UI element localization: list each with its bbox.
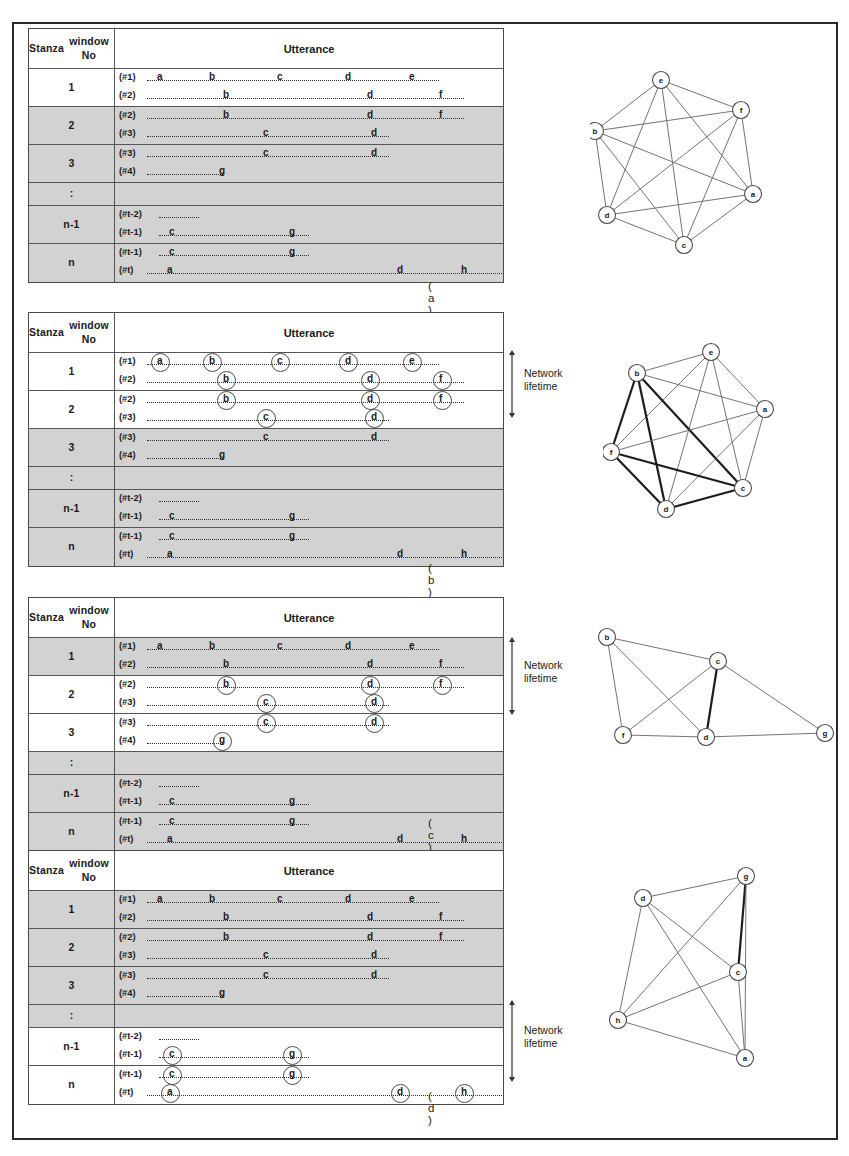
network-lifetime-label-line1: Network [524,1024,563,1037]
graph-node-g: g [817,725,834,742]
utterance-token: c [263,949,269,960]
graph-edge [623,661,718,735]
row-label: n-1 [29,775,115,812]
utterance-tag: (#t-1) [119,796,142,806]
utterance-tag: (#4) [119,735,136,745]
row-label: 1 [29,353,115,390]
utterance-line: (#t-1)cg [119,246,501,262]
graph-node-label: f [622,731,625,740]
utterance-token: c [169,795,175,806]
utterance-token: g [289,815,295,826]
table-header-row: Stanzawindow NoUtterance [29,598,503,638]
utterance-dotted-line [159,1039,199,1040]
utterance-token: d [371,696,377,707]
table-row: : [29,752,503,775]
utterance-tag: (#t-1) [119,227,142,237]
network-graph-c: bcfdg [593,615,848,765]
graph-edge [607,637,718,661]
row-utterances: (#3)cd(#4)g [115,714,503,751]
utterance-dotted-line [147,920,464,921]
utterance-token: c [169,1048,175,1059]
utterance-line: (#t-1)cg [119,530,501,546]
utterance-line: (#4)g [119,449,501,465]
utterance-tag: (#1) [119,641,136,651]
table-header-row: Stanzawindow NoUtterance [29,29,503,69]
table-row: 2(#2)bdf(#3)cd [29,929,503,967]
utterance-line: (#t)adh [119,548,501,564]
utterance-line: (#4)g [119,734,501,750]
graph-node-d: d [698,729,715,746]
token-circle [433,391,452,410]
graph-edge [711,352,765,409]
utterance-token: d [367,393,373,404]
graph-edge [643,898,745,1058]
utterance-token: d [367,658,373,669]
graph-edge [618,1020,745,1058]
utterance-line: (#t-1)cg [119,1048,501,1064]
utterance-token: c [263,716,269,727]
row-label: n-1 [29,206,115,243]
utterance-token: d [371,949,377,960]
utterance-dotted-line [147,842,503,843]
utterance-line: (#4)g [119,987,501,1003]
utterance-token: d [367,931,373,942]
graph-edge [611,373,637,452]
graph-edge [611,452,743,488]
row-label: 3 [29,429,115,466]
utterance-line: (#t-2) [119,208,501,224]
utterance-tag: (#1) [119,72,136,82]
network-lifetime-label: Networklifetime [524,1024,563,1050]
utterance-tag: (#t-2) [119,493,142,503]
caption-panel-b: ( b ) [428,562,435,598]
utterance-dotted-line [159,501,199,502]
utterance-dotted-line [147,996,223,997]
graph-node-label: a [751,190,756,199]
graph-edge [607,80,661,215]
stanza-window-table: Stanzawindow NoUtterance1(#1)abcde(#2)bd… [28,28,504,283]
row-utterances: (#t-1)cg(#t)adh [115,244,503,282]
row-utterances: (#2)bdf(#3)cd [115,676,503,713]
utterance-token: e [409,71,415,82]
utterance-token: g [289,226,295,237]
graph-edge [637,373,743,488]
utterance-token: g [289,530,295,541]
row-label: 3 [29,145,115,182]
network-lifetime-label-line2: lifetime [524,1037,563,1050]
row-label: n [29,528,115,566]
utterance-tag: (#t) [119,834,133,844]
graph-node-f: f [733,102,750,119]
utterance-dotted-line [147,364,439,365]
utterance-tag: (#2) [119,932,136,942]
utterance-line: (#2)bdf [119,931,501,947]
header-stanza-window-no: Stanzawindow No [29,29,115,68]
row-utterances: (#3)cd(#4)g [115,967,503,1004]
graph-edge [637,373,765,409]
utterance-tag: (#t-1) [119,1069,142,1079]
utterance-tag: (#2) [119,912,136,922]
utterance-line: (#2)bdf [119,109,501,125]
utterance-token: g [219,449,225,460]
graph-node-c: c [730,964,747,981]
utterance-token: c [169,510,175,521]
row-label: 2 [29,676,115,713]
utterance-line: (#t)adh [119,833,501,849]
graph-edge [666,409,765,509]
graph-node-label: b [635,369,640,378]
table-row: 1(#1)abcde(#2)bdf [29,891,503,929]
utterance-tag: (#3) [119,697,136,707]
row-label: n-1 [29,1028,115,1065]
utterance-tag: (#t-1) [119,531,142,541]
utterance-token: g [289,246,295,257]
graph-node-c: c [735,480,752,497]
header-utterance: Utterance [115,29,503,68]
graph-node-a: a [745,186,762,203]
graph-node-label: g [744,872,749,881]
graph-edge [643,876,746,898]
utterance-dotted-line [147,98,464,99]
utterance-token: g [289,1068,295,1079]
utterance-token: d [397,1086,403,1097]
table-row: n-1(#t-2)(#t-1)cg [29,775,503,813]
utterance-dotted-line [159,786,199,787]
utterance-token: f [439,373,442,384]
graph-node-f: f [603,444,620,461]
